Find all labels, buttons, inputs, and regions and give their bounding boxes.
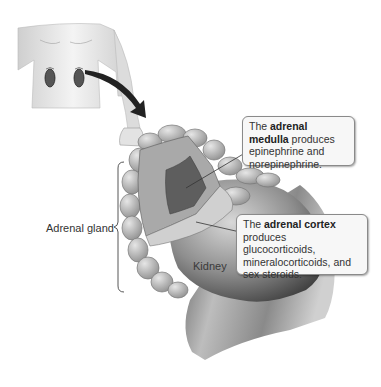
callout-text: produces glucocorticoids, mineralocortic… — [243, 231, 351, 281]
kidney-label: Kidney — [193, 260, 227, 272]
callout-prefix: The — [243, 218, 264, 230]
callout-prefix: The — [249, 120, 270, 132]
callout-adrenal-medulla: The adrenal medulla produces epinephrine… — [242, 116, 355, 166]
callout-term: adrenal cortex — [264, 218, 336, 230]
callout-adrenal-cortex: The adrenal cortex produces glucocortico… — [236, 214, 368, 275]
adrenal-gland-illustration — [0, 0, 381, 387]
adrenal-gland-label: Adrenal gland — [46, 222, 114, 234]
torso-inset — [18, 24, 144, 147]
